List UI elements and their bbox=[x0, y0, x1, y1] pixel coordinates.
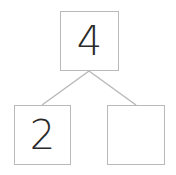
whole-box: 4 bbox=[60, 11, 119, 71]
part-box-right[interactable] bbox=[107, 105, 165, 165]
part-box-left: 2 bbox=[14, 105, 71, 165]
left-connector bbox=[42, 71, 89, 105]
whole-value: 4 bbox=[77, 18, 102, 64]
right-connector bbox=[89, 71, 136, 105]
part-left-value: 2 bbox=[30, 112, 55, 158]
